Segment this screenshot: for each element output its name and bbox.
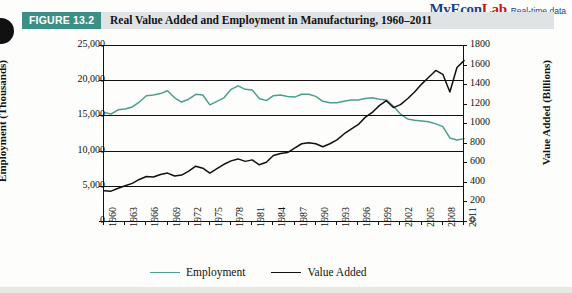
x-axis-tick [188, 221, 189, 225]
figure-page: MyEconLab Real-time data FIGURE 13.2 Rea… [0, 0, 572, 293]
y-axis-left-tick-label: 15,000 [78, 108, 106, 119]
x-axis-tick-label: 1984 [276, 207, 287, 227]
x-axis-tick-label: 1996 [361, 207, 372, 227]
legend-item-value-added: Value Added [271, 266, 366, 278]
y-axis-right-tick-label: 1000 [470, 116, 490, 127]
chart-gridline [104, 151, 464, 152]
page-bottom-strip [0, 287, 572, 293]
x-axis-tick-label: 1963 [128, 207, 139, 227]
x-axis-tick [294, 221, 295, 225]
x-axis-tick [209, 221, 210, 225]
y-axis-right-tick-label: 1400 [470, 77, 490, 88]
chart-gridline [104, 45, 464, 46]
y-axis-left-tick [99, 115, 103, 116]
x-axis-tick [463, 221, 464, 225]
x-axis-tick [124, 221, 125, 225]
x-axis-tick-label: 2005 [425, 207, 436, 227]
y-axis-left-tick [99, 151, 103, 152]
figure-title: Real Value Added and Employment in Manuf… [110, 12, 432, 29]
x-axis-tick-label: 1981 [255, 207, 266, 227]
y-axis-left-tick-label: 10,000 [78, 144, 106, 155]
y-axis-right-tick-label: 600 [470, 155, 485, 166]
legend-label-employment: Employment [186, 266, 245, 278]
y-axis-right-tick-label: 400 [470, 175, 485, 186]
x-axis-tick [167, 221, 168, 225]
y-axis-left-tick [99, 186, 103, 187]
x-axis-tick [103, 221, 104, 225]
x-axis-tick [357, 221, 358, 225]
chart-gridline [104, 80, 464, 81]
x-axis-tick [378, 221, 379, 225]
y-axis-right-tick [463, 45, 467, 46]
x-axis-tick-label: 1987 [298, 207, 309, 227]
y-axis-left-tick-label: 25,000 [78, 38, 106, 49]
y-axis-left-tick [99, 45, 103, 46]
x-axis-tick [442, 221, 443, 225]
x-axis-tick-label: 1960 [107, 207, 118, 227]
legend-item-employment: Employment [150, 266, 245, 278]
chart-legend: Employment Value Added [150, 266, 367, 278]
x-axis-tick-label: 1972 [192, 207, 203, 227]
x-axis-tick-label: 2002 [403, 207, 414, 227]
y-axis-right-line [463, 45, 464, 222]
x-axis-tick-label: 1978 [234, 207, 245, 227]
x-axis-tick [145, 221, 146, 225]
y-axis-right-tick [463, 201, 467, 202]
y-axis-right-title: Value Added (Billions) [540, 60, 552, 165]
y-axis-right-tick [463, 162, 467, 163]
x-axis-tick-label: 1969 [171, 207, 182, 227]
legend-label-value-added: Value Added [307, 266, 366, 278]
y-axis-right-tick-label: 1600 [470, 58, 490, 69]
legend-swatch-value-added [271, 272, 301, 273]
x-axis-tick [272, 221, 273, 225]
y-axis-right-tick-label: 200 [470, 194, 485, 205]
figure-number-badge: FIGURE 13.2 [22, 12, 101, 29]
x-axis-tick [251, 221, 252, 225]
legend-swatch-employment [150, 272, 180, 273]
y-axis-right-tick-label: 800 [470, 136, 485, 147]
chart-gridline [104, 186, 464, 187]
x-axis-tick [421, 221, 422, 225]
y-axis-right-tick [463, 143, 467, 144]
chart-line-employment [104, 86, 464, 140]
y-axis-left-tick-label: 20,000 [78, 73, 106, 84]
x-axis-tick [336, 221, 337, 225]
chart-plot-area [103, 45, 464, 222]
y-axis-left-tick [99, 80, 103, 81]
chart-gridline [104, 115, 464, 116]
x-axis-tick-label: 2008 [446, 207, 457, 227]
x-axis-tick-label: 1993 [340, 207, 351, 227]
y-axis-right-tick [463, 65, 467, 66]
x-axis-tick [315, 221, 316, 225]
x-axis-tick-label: 2011 [467, 207, 478, 227]
y-axis-right-tick-label: 1800 [470, 38, 490, 49]
y-axis-left-title: Employment (Thousands) [0, 60, 8, 182]
y-axis-right-tick [463, 182, 467, 183]
chart-series-layer [104, 45, 464, 221]
x-axis-tick [230, 221, 231, 225]
page-edge-dot [0, 18, 14, 44]
x-axis-tick-label: 1999 [382, 207, 393, 227]
y-axis-right-tick [463, 84, 467, 85]
x-axis-tick [399, 221, 400, 225]
x-axis-tick-label: 1990 [319, 207, 330, 227]
y-axis-left-tick-label: 5,000 [83, 179, 106, 190]
y-axis-right-tick [463, 123, 467, 124]
y-axis-right-tick [463, 104, 467, 105]
y-axis-right-tick-label: 1200 [470, 97, 490, 108]
x-axis-tick-label: 1975 [213, 207, 224, 227]
x-axis-tick-label: 1966 [149, 207, 160, 227]
